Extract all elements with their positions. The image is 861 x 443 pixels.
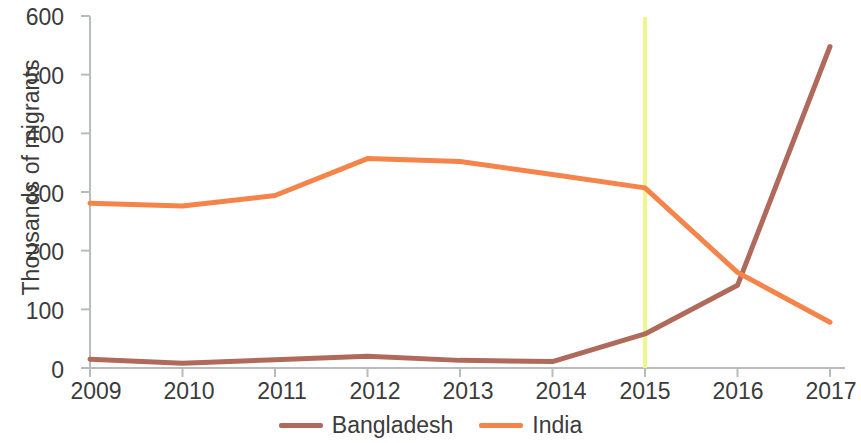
y-tick-marks xyxy=(81,16,90,368)
legend-swatch-india xyxy=(479,423,523,428)
x-tick-marks xyxy=(90,368,830,377)
line-chart: Thousands of migrants 600 500 400 300 20… xyxy=(0,0,861,443)
plot-area xyxy=(0,0,861,443)
legend-label-india: India xyxy=(532,414,582,437)
legend-item-india[interactable]: India xyxy=(479,414,582,437)
series-lines xyxy=(90,47,830,364)
axis-lines xyxy=(90,16,845,368)
legend-label-bangladesh: Bangladesh xyxy=(332,414,454,437)
legend: Bangladesh India xyxy=(0,414,861,437)
legend-swatch-bangladesh xyxy=(279,423,323,428)
legend-item-bangladesh[interactable]: Bangladesh xyxy=(279,414,454,437)
